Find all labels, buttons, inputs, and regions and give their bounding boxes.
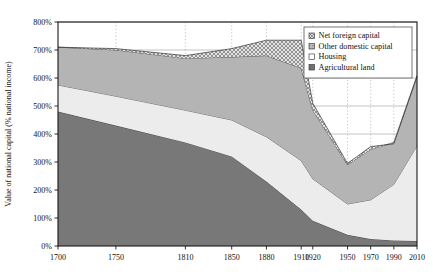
legend-item-label[interactable]: Other domestic capital: [319, 42, 394, 51]
y-tick-label: 600%: [33, 74, 52, 83]
x-tick-label: 1880: [258, 253, 274, 262]
legend-swatch-mid-gray: [309, 44, 315, 50]
y-tick-label: 700%: [33, 46, 52, 55]
legend-swatch-crosshatch: [309, 33, 315, 39]
y-axis-title: Value of national capital (% national in…: [4, 61, 13, 207]
y-axis-title-text: Value of national capital (% national in…: [4, 61, 13, 207]
x-tick-label: 1990: [386, 253, 402, 262]
y-tick-label: 200%: [33, 186, 52, 195]
y-tick-label: 800%: [33, 18, 52, 27]
y-tick-label: 0%: [41, 242, 52, 251]
x-tick-label: 1920: [305, 253, 321, 262]
x-tick-label: 1970: [363, 253, 379, 262]
x-tick-label: 1950: [340, 253, 356, 262]
chart-legend[interactable]: Net foreign capitalOther domestic capita…: [304, 27, 412, 78]
y-axis-tick-labels: 0%100%200%300%400%500%600%700%800%: [33, 18, 52, 251]
x-tick-label: 1850: [224, 253, 240, 262]
legend-swatch-dark-gray: [309, 65, 315, 71]
x-tick-label: 1700: [50, 253, 66, 262]
chart-figure: 0%100%200%300%400%500%600%700%800% 17001…: [0, 0, 433, 274]
x-tick-label: 1750: [108, 253, 124, 262]
x-tick-label: 1810: [177, 253, 193, 262]
y-tick-label: 300%: [33, 158, 52, 167]
legend-item-label[interactable]: Housing: [319, 52, 347, 61]
y-tick-label: 500%: [33, 102, 52, 111]
national-capital-area-chart: 0%100%200%300%400%500%600%700%800% 17001…: [0, 0, 433, 274]
x-tick-label: 2010: [409, 253, 425, 262]
legend-item-label[interactable]: Net foreign capital: [319, 31, 381, 40]
legend-swatch-white: [309, 54, 315, 60]
y-tick-label: 400%: [33, 130, 52, 139]
legend-item-label[interactable]: Agricultural land: [319, 63, 375, 72]
y-tick-label: 100%: [33, 214, 52, 223]
